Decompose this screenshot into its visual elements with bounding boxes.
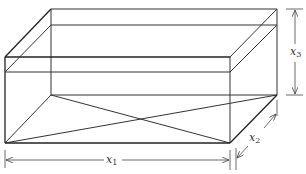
dimension-x1: x1 bbox=[5, 150, 230, 170]
box-diagram: x1 x2 x3 bbox=[0, 0, 306, 174]
front-face bbox=[5, 57, 230, 143]
x2-label: x2 bbox=[249, 131, 260, 145]
back-face bbox=[51, 9, 277, 95]
x3-label: x3 bbox=[290, 45, 301, 59]
depth-edges bbox=[5, 9, 277, 143]
dimension-x2: x2 bbox=[236, 100, 277, 170]
x1-label: x1 bbox=[106, 153, 117, 167]
dimension-x3: x3 bbox=[286, 9, 303, 95]
